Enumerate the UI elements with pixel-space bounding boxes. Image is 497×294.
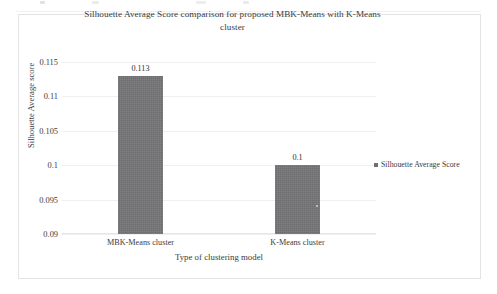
gridline [62,200,376,201]
y-axis-tick-label: 0.1 [14,161,58,170]
x-axis-tick-label: K-Means cluster [233,238,363,247]
y-axis-tick-label: 0.115 [14,58,58,67]
chart-title-line-2: cluster [40,21,425,34]
x-axis-tick-label: MBK-Means cluster [76,238,206,247]
gridline [62,234,376,235]
y-axis-tick-label: 0.105 [14,126,58,135]
y-axis-tick-label: 0.09 [14,230,58,239]
y-axis-tick-label: 0.095 [14,195,58,204]
gridline [62,165,376,166]
scan-speck [316,205,318,207]
chart-title: Silhouette Average Score comparison for … [40,8,425,33]
gridline [62,96,376,97]
bar-value-label: 0.1 [258,153,338,162]
chart-legend[interactable]: Silhouette Average Score [374,160,460,169]
bar-value-label: 0.113 [101,64,181,73]
x-axis-baseline [62,233,376,234]
bar[interactable] [118,76,163,234]
y-axis-tick-label: 0.11 [14,92,58,101]
legend-label: Silhouette Average Score [381,160,460,169]
x-axis-title: Type of clustering model [62,252,376,262]
gridline [62,131,376,132]
legend-marker-icon [374,163,378,167]
plot-area [62,62,376,234]
bar[interactable] [275,165,320,234]
chart-title-line-1: Silhouette Average Score comparison for … [40,8,425,21]
